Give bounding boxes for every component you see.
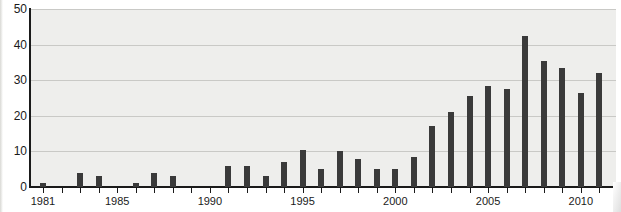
x-tick-mark bbox=[377, 188, 378, 193]
x-tick-mark bbox=[544, 188, 545, 193]
bar bbox=[263, 176, 269, 187]
x-tick-mark bbox=[358, 188, 359, 193]
x-tick-mark bbox=[599, 188, 600, 193]
bar bbox=[133, 183, 139, 187]
x-tick-label: 2000 bbox=[383, 195, 407, 208]
bars-container bbox=[30, 9, 616, 187]
bar bbox=[244, 166, 250, 187]
x-tick-label: 2010 bbox=[569, 195, 593, 208]
x-tick-mark bbox=[507, 188, 508, 193]
bar bbox=[337, 151, 343, 187]
scan-edge-corner bbox=[613, 182, 621, 212]
x-tick-mark bbox=[210, 188, 211, 193]
y-tick-label: 30 bbox=[1, 74, 27, 86]
x-tick-mark bbox=[562, 188, 563, 193]
x-tick-mark bbox=[451, 188, 452, 193]
x-tick-mark bbox=[321, 188, 322, 193]
x-tick-mark bbox=[80, 188, 81, 193]
bar bbox=[170, 176, 176, 187]
scan-edge-left bbox=[0, 0, 3, 212]
x-tick-label: 1985 bbox=[105, 195, 129, 208]
bar bbox=[448, 112, 454, 187]
bar bbox=[541, 61, 547, 187]
bar bbox=[596, 73, 602, 187]
x-tick-mark bbox=[99, 188, 100, 193]
x-tick-mark bbox=[303, 188, 304, 193]
y-tick-label: 40 bbox=[1, 39, 27, 51]
x-tick-mark bbox=[284, 188, 285, 193]
x-tick-mark bbox=[432, 188, 433, 193]
x-tick-mark bbox=[488, 188, 489, 193]
y-tick-label: 0 bbox=[1, 181, 27, 193]
x-tick-mark bbox=[470, 188, 471, 193]
y-axis-ticks: 01020304050 bbox=[0, 0, 27, 212]
bar bbox=[559, 68, 565, 187]
bar bbox=[467, 96, 473, 187]
bar-chart-figure: 01020304050 1981198519901995200020052010 bbox=[0, 0, 621, 212]
x-tick-mark bbox=[136, 188, 137, 193]
bar bbox=[429, 126, 435, 187]
bar bbox=[225, 166, 231, 187]
x-tick-mark bbox=[414, 188, 415, 193]
y-tick-label: 20 bbox=[1, 110, 27, 122]
y-tick-label: 10 bbox=[1, 145, 27, 157]
bar bbox=[151, 173, 157, 187]
x-tick-label: 1990 bbox=[198, 195, 222, 208]
x-tick-mark bbox=[247, 188, 248, 193]
x-tick-mark bbox=[154, 188, 155, 193]
x-tick-label: 2005 bbox=[476, 195, 500, 208]
x-tick-label: 1995 bbox=[290, 195, 314, 208]
x-axis-ticks: 1981198519901995200020052010 bbox=[30, 188, 616, 212]
bar bbox=[485, 86, 491, 187]
x-tick-label: 1981 bbox=[31, 195, 55, 208]
bar bbox=[504, 89, 510, 187]
y-tick-label: 50 bbox=[1, 3, 27, 15]
x-tick-mark bbox=[173, 188, 174, 193]
bar bbox=[318, 169, 324, 187]
x-tick-mark bbox=[581, 188, 582, 193]
bar bbox=[392, 169, 398, 187]
bar bbox=[355, 159, 361, 187]
bar bbox=[77, 173, 83, 187]
bar bbox=[40, 183, 46, 187]
x-tick-mark bbox=[117, 188, 118, 193]
bar bbox=[578, 93, 584, 187]
x-tick-mark bbox=[340, 188, 341, 193]
bar bbox=[281, 162, 287, 187]
bar bbox=[374, 169, 380, 187]
bar bbox=[411, 157, 417, 187]
x-tick-mark bbox=[228, 188, 229, 193]
bar bbox=[300, 150, 306, 187]
x-tick-mark bbox=[395, 188, 396, 193]
bar bbox=[522, 36, 528, 187]
x-tick-mark bbox=[266, 188, 267, 193]
x-tick-mark bbox=[62, 188, 63, 193]
x-tick-mark bbox=[525, 188, 526, 193]
bar bbox=[96, 176, 102, 187]
x-tick-mark bbox=[191, 188, 192, 193]
x-tick-mark bbox=[43, 188, 44, 193]
